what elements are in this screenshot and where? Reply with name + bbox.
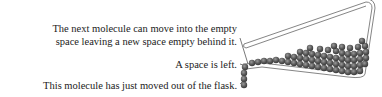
molecules (241, 38, 369, 88)
flask-diagram (0, 0, 382, 97)
